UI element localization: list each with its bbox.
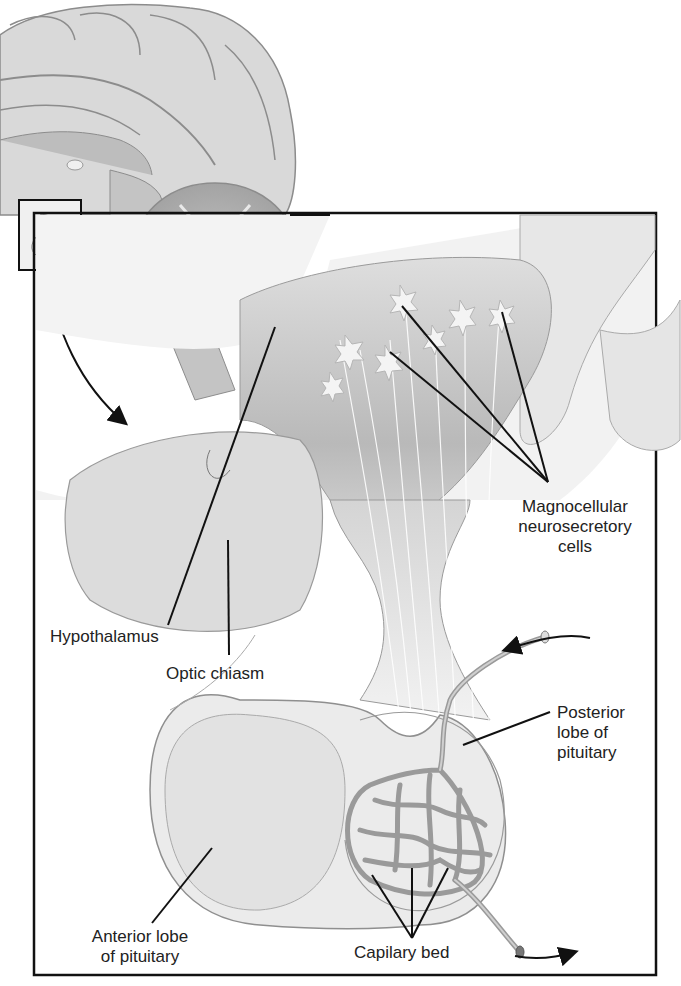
- pituitary-anatomy-diagram: [0, 0, 681, 986]
- label-posterior-lobe-of-pituitary: Posterior lobe of pituitary: [557, 703, 625, 763]
- label-optic-chiasm: Optic chiasm: [166, 664, 264, 684]
- label-magnocellular-neurosecretory-cells: Magnocellular neurosecretory cells: [490, 497, 660, 557]
- label-anterior-lobe-of-pituitary: Anterior lobe of pituitary: [70, 927, 210, 967]
- enlarged-section: [36, 215, 680, 929]
- label-capillary-bed: Capilary bed: [354, 943, 449, 963]
- label-hypothalamus: Hypothalamus: [50, 627, 159, 647]
